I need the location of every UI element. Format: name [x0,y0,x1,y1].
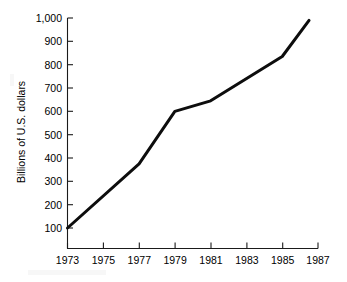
y-tick-label: 100 [44,222,62,234]
x-tick-labels: 1973 1975 1977 1979 1981 1983 1985 1987 [56,254,330,266]
line-chart: Billions of U.S. dollars 1,000 900 800 7… [0,0,347,282]
x-tick-label: 1987 [306,254,330,266]
data-series-line [68,20,310,228]
y-tick-label: 800 [44,59,62,71]
y-tick-label: 500 [44,129,62,141]
x-tick-marks [68,243,319,249]
y-tick-label: 200 [44,199,62,211]
x-tick-label: 1973 [56,254,80,266]
x-tick-label: 1983 [235,254,259,266]
y-tick-label: 700 [44,82,62,94]
y-tick-label: 300 [44,175,62,187]
y-tick-label: 1,000 [36,12,62,24]
x-tick-label: 1981 [199,254,223,266]
x-tick-label: 1977 [128,254,152,266]
x-tick-label: 1975 [92,254,116,266]
x-tick-label: 1979 [163,254,187,266]
x-tick-label: 1985 [271,254,295,266]
y-tick-label: 400 [44,152,62,164]
y-tick-labels: 1,000 900 800 700 600 500 400 300 200 10… [36,12,62,234]
chart-figure: Billions of U.S. dollars 1,000 900 800 7… [0,0,347,282]
y-tick-marks [68,18,74,228]
y-axis-title: Billions of U.S. dollars [15,81,27,183]
y-tick-label: 600 [44,105,62,117]
y-tick-label: 900 [44,35,62,47]
